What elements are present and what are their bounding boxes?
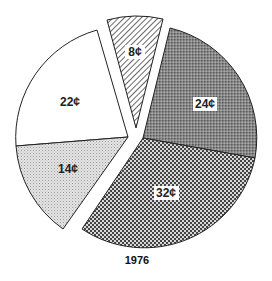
label-22-cents: 22¢ (60, 95, 80, 109)
slice-24-cents (143, 28, 257, 158)
label-14-cents: 14¢ (58, 162, 78, 176)
svg-text:32¢: 32¢ (156, 186, 176, 200)
slice-22-cents (16, 30, 128, 146)
label-32-cents: 32¢ (154, 186, 179, 200)
label-24-cents: 24¢ (193, 97, 217, 111)
label-8-cents: 8¢ (125, 45, 145, 59)
chart-caption-year: 1976 (125, 254, 149, 266)
svg-text:14¢: 14¢ (58, 162, 78, 176)
svg-text:22¢: 22¢ (60, 95, 80, 109)
svg-text:24¢: 24¢ (195, 97, 215, 111)
pie-chart: 8¢ 24¢ 32¢ 14¢ 22¢ 1976 (0, 0, 272, 281)
svg-text:8¢: 8¢ (128, 45, 142, 59)
